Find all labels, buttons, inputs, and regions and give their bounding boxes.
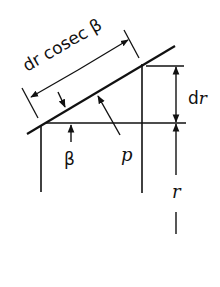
slant-length-label: dr cosec β	[19, 14, 105, 75]
dr-label-d: d	[188, 88, 199, 108]
dr-label-r: r	[199, 88, 208, 108]
angle-pointer-arrow	[58, 92, 65, 107]
slant-length-arrow-right	[78, 40, 128, 70]
slant-extension-tick-left	[22, 88, 38, 118]
p-label: p	[121, 144, 133, 165]
diagram-canvas: dr cosec β dr β p r	[0, 0, 220, 287]
slant-length-arrow-left	[31, 70, 78, 97]
dr-label: dr	[188, 88, 208, 108]
p-pointer-arrow	[98, 96, 120, 135]
beta-label: β	[64, 149, 75, 169]
slant-extension-tick-right	[124, 30, 139, 58]
r-label: r	[172, 181, 182, 202]
